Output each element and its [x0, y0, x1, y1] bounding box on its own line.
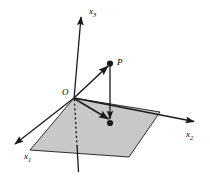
- axis-label-x3: x3: [89, 7, 96, 18]
- point-label-p: P: [117, 58, 123, 67]
- x3-axis: [74, 17, 81, 99]
- axis-label-x1: x1: [24, 152, 31, 163]
- figure-container: x3 x2 x1 P O: [0, 0, 210, 178]
- origin-label: O: [62, 88, 69, 97]
- coordinate-diagram: [0, 0, 210, 178]
- plane-x1x2: [30, 98, 160, 157]
- projection-dot: [107, 120, 113, 126]
- point-P-dot: [107, 60, 113, 66]
- vector-O-to-P: [75, 66, 108, 97]
- axis-label-x2: x2: [186, 130, 193, 141]
